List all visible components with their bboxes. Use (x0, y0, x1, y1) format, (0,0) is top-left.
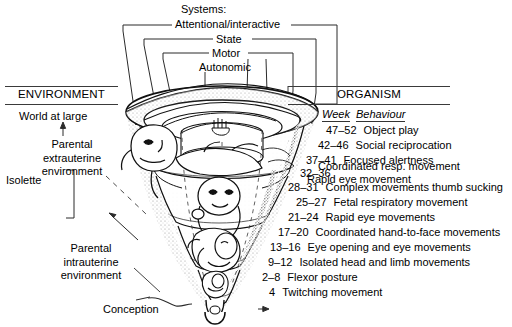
week-range: 4 (269, 286, 275, 298)
environment-rule-bottom (5, 104, 118, 105)
behaviour-label: Object play (364, 124, 419, 136)
systems-title: Systems: (181, 3, 226, 15)
week-range: 13–16 (270, 241, 301, 253)
environment-conception: Conception (103, 303, 159, 315)
behaviour-label: Isolated head and limb movements (299, 256, 470, 268)
week-range: 25–27 (296, 196, 327, 208)
week-range: 28–31 (288, 181, 319, 193)
organism-rule-bottom (288, 104, 450, 105)
week-range: 21–24 (288, 211, 319, 223)
environment-parental-intrauterine: Parental intrauterine environment (48, 242, 134, 283)
behaviour-label: Coordinated hand-to-face movements (316, 226, 501, 238)
week-behaviour-row: 13–16Eye opening and eye movements (270, 241, 471, 253)
environment-heading: ENVIRONMENT (5, 88, 118, 100)
week-behaviour-row: →4Twitching movement (258, 286, 382, 298)
behaviour-label: Twitching movement (282, 286, 382, 298)
behaviour-label: Eye opening and eye movements (308, 241, 471, 253)
week-behaviour-row: 42–46Social reciprocation (318, 139, 452, 151)
week-range: 9–12 (268, 256, 292, 268)
systems-level-motor: Motor (212, 47, 240, 59)
week-range: 42–46 (318, 139, 349, 151)
systems-level-attentional-interactive: Attentional/interactive (175, 18, 280, 30)
week-behaviour-row: 47–52Object play (326, 124, 419, 136)
week-behaviour-row: 21–24Rapid eye movements (288, 211, 435, 223)
week-range: 2–8 (262, 271, 280, 283)
week-behaviour-row: 9–12Isolated head and limb movements (268, 256, 470, 268)
twitching-row-arrow (258, 306, 269, 311)
organism-col-behaviour: Behaviour (356, 108, 406, 122)
organism-rule-top (288, 86, 450, 87)
week-behaviour-row: 17–20Coordinated hand-to-face movements (278, 226, 500, 238)
environment-world-at-large: World at large (19, 110, 87, 122)
week-range: 17–20 (278, 226, 309, 238)
environment-parental-extrauterine: Parental extrauterine environment (32, 138, 112, 179)
organism-col-week: Week (322, 108, 350, 122)
organism-column-headers: WeekBehaviour (322, 108, 405, 120)
environment-isolette: Isolette (6, 174, 41, 186)
behaviour-label: Rapid eye movements (326, 211, 435, 223)
organism-heading: ORGANISM (310, 88, 428, 100)
behaviour-label: Coordinated resp. movement (318, 160, 460, 172)
week-range: 47–52 (326, 124, 357, 136)
week-behaviour-row: Coordinated resp. movement (318, 160, 460, 172)
behaviour-label: Complex movements thumb sucking (326, 181, 503, 193)
week-behaviour-row: 2–8Flexor posture (262, 271, 358, 283)
behaviour-label: Social reciprocation (356, 139, 452, 151)
behaviour-label: Fetal respiratory movement (334, 196, 468, 208)
week-behaviour-row: 28–31Complex movements thumb sucking (288, 181, 503, 193)
environment-rule-top (5, 86, 118, 87)
systems-level-state: State (216, 33, 242, 45)
week-behaviour-row: 25–27Fetal respiratory movement (296, 196, 467, 208)
behaviour-label: Flexor posture (287, 271, 357, 283)
systems-level-autonomic: Autonomic (199, 61, 251, 73)
